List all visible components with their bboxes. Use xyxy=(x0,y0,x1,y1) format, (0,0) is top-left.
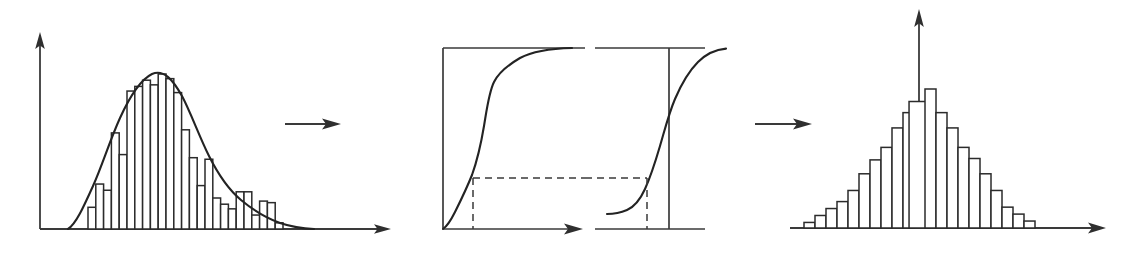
bar xyxy=(143,80,151,229)
bar xyxy=(150,85,158,229)
bar xyxy=(213,198,221,229)
bar xyxy=(991,190,1002,228)
bar xyxy=(892,128,903,228)
cdf-left-box-frame xyxy=(443,48,585,235)
cdf-transform-panel xyxy=(443,48,726,235)
bar xyxy=(221,204,229,229)
cdf-right-dashed-markers xyxy=(585,178,647,229)
bar xyxy=(267,203,275,229)
bar xyxy=(947,128,958,228)
bar xyxy=(135,86,143,229)
arrow-left-to-middle xyxy=(285,118,341,129)
bar xyxy=(1002,207,1013,228)
bar xyxy=(837,202,848,228)
bar xyxy=(127,91,135,229)
right-histogram-bars xyxy=(804,89,1035,228)
bar xyxy=(859,174,870,228)
bar xyxy=(826,209,837,228)
normal-cdf-curve-right-box xyxy=(607,49,726,214)
bar xyxy=(925,89,936,228)
bar xyxy=(1024,221,1035,228)
bar xyxy=(1013,214,1024,228)
bar xyxy=(244,192,252,229)
bar xyxy=(969,159,980,229)
figure-canvas xyxy=(0,0,1143,257)
probability-integral-transform-figure xyxy=(0,0,1143,257)
bar xyxy=(936,113,947,228)
bar xyxy=(104,190,112,229)
bar xyxy=(158,74,166,229)
bar xyxy=(197,186,205,229)
cdf-left-dashed-markers xyxy=(473,178,585,229)
bar xyxy=(815,215,826,228)
normal-histogram-panel xyxy=(790,9,1106,233)
bar xyxy=(228,209,236,229)
bar xyxy=(205,159,213,229)
arrow-middle-to-right xyxy=(755,118,812,129)
skewed-histogram-panel xyxy=(35,32,391,234)
bar xyxy=(848,190,859,228)
bar xyxy=(804,222,815,228)
bar xyxy=(166,79,174,229)
bar xyxy=(252,215,260,229)
left-y-axis xyxy=(35,32,45,229)
bar xyxy=(980,174,991,228)
bar xyxy=(88,207,96,229)
bar xyxy=(119,155,127,229)
cdf-curve-left-box xyxy=(443,48,572,229)
bar xyxy=(958,147,969,228)
bar xyxy=(174,93,182,229)
bar xyxy=(182,130,190,229)
bar xyxy=(870,160,881,228)
bar xyxy=(881,147,892,228)
left-histogram-bars xyxy=(88,74,283,229)
bar xyxy=(189,158,197,229)
bar xyxy=(111,133,119,229)
bar xyxy=(96,184,104,229)
